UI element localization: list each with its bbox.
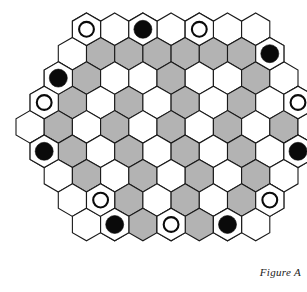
hexagonal-game-board[interactable]	[0, 0, 307, 292]
piece-black-right-lower[interactable]	[289, 142, 307, 160]
piece-black-upper-right[interactable]	[261, 45, 279, 63]
piece-black-bottom-left[interactable]	[106, 216, 124, 234]
piece-black-left-lower[interactable]	[35, 142, 53, 160]
piece-black-top-center-left[interactable]	[134, 20, 152, 38]
piece-black-bottom-right[interactable]	[219, 216, 237, 234]
piece-white-top-left[interactable]	[79, 22, 94, 37]
piece-white-top-center-right[interactable]	[192, 22, 207, 37]
figure-caption: Figure A	[260, 266, 301, 278]
piece-white-left-upper[interactable]	[37, 95, 52, 110]
piece-black-upper-left[interactable]	[49, 69, 67, 87]
piece-white-right-upper[interactable]	[291, 95, 306, 110]
figure-container: Figure A	[0, 0, 307, 292]
piece-white-right-bottom[interactable]	[262, 193, 277, 208]
piece-white-left-bottom[interactable]	[93, 193, 108, 208]
piece-white-bottom-center[interactable]	[164, 217, 179, 232]
